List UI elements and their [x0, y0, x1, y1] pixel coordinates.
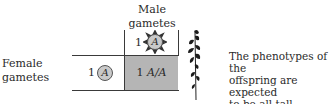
phenotype-caption: The phenotypes of the offspring are expe… — [229, 50, 330, 104]
female-gametes-label: Female gametes — [2, 57, 49, 85]
male-gametes-label: Male gametes — [126, 3, 178, 31]
grid-vertical-divider — [124, 30, 125, 91]
offspring-genotype-text: A/A — [147, 66, 167, 79]
grid-right-border — [178, 30, 179, 56]
tall-plant-icon — [183, 28, 205, 100]
caption-line3: to be all tall — [229, 98, 330, 104]
egg-cell-icon: A — [97, 65, 113, 81]
grid-bottom-border — [72, 90, 179, 91]
offspring-genotype: 1 A/A — [125, 66, 178, 80]
caption-line2: offspring are expected — [229, 74, 330, 98]
female-label-line2: gametes — [2, 71, 49, 85]
female-label-line1: Female — [2, 57, 49, 71]
female-gamete-count: 1 — [88, 66, 95, 80]
male-gamete-count: 1 — [135, 36, 142, 50]
male-label-line2: gametes — [126, 17, 178, 31]
male-label-line1: Male — [126, 3, 178, 17]
male-allele: A — [147, 34, 163, 50]
caption-line1: The phenotypes of the — [229, 50, 330, 74]
offspring-count: 1 — [136, 66, 143, 79]
grid-horizontal-divider — [72, 55, 179, 56]
